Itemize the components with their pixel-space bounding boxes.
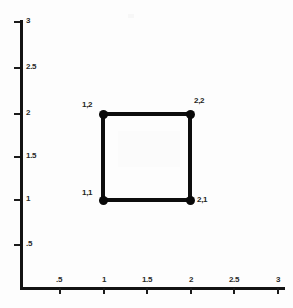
x-tick-label-1.5: 1.5 — [137, 276, 157, 284]
data-point-label-2-1: 2,1 — [197, 196, 207, 204]
data-point-2-1 — [186, 196, 195, 205]
plot-figure: 3 2.5 2 1.5 1 .5 .5 1 1.5 2 2.5 3 1,2 2,… — [0, 0, 293, 308]
y-tick-2 — [14, 113, 20, 115]
data-point-label-1-2: 1,2 — [82, 101, 92, 109]
x-tick-2.5 — [233, 288, 235, 294]
x-tick-2 — [190, 288, 192, 294]
x-tick-1 — [103, 288, 105, 294]
y-tick-label-2.5: 2.5 — [26, 63, 36, 71]
square-edge-top — [103, 112, 191, 116]
y-axis-line — [20, 20, 23, 290]
y-tick-label-0.5: .5 — [26, 240, 32, 248]
data-point-2-2 — [186, 110, 195, 119]
data-point-1-1 — [99, 196, 108, 205]
y-tick-1.5 — [14, 156, 20, 158]
y-tick-2.5 — [14, 67, 20, 69]
y-tick-label-3: 3 — [26, 17, 30, 25]
y-tick-3 — [14, 21, 20, 23]
square-edge-right — [188, 112, 192, 200]
x-tick-label-3: 3 — [268, 276, 288, 284]
square-edge-bottom — [103, 198, 191, 202]
scan-artifact — [118, 131, 180, 167]
data-point-label-1-1: 1,1 — [82, 189, 92, 197]
x-tick-1.5 — [146, 288, 148, 294]
y-tick-0.5 — [14, 244, 20, 246]
x-tick-0.5 — [59, 288, 61, 294]
x-tick-label-1: 1 — [94, 276, 114, 284]
y-tick-label-1: 1 — [26, 195, 30, 203]
y-tick-label-2: 2 — [26, 109, 30, 117]
square-edge-left — [101, 112, 105, 200]
data-point-label-2-2: 2,2 — [194, 97, 204, 105]
x-tick-label-2: 2 — [181, 276, 201, 284]
x-tick-label-2.5: 2.5 — [224, 276, 244, 284]
scan-artifact — [128, 14, 134, 18]
y-tick-label-1.5: 1.5 — [26, 152, 36, 160]
x-tick-3 — [277, 288, 279, 294]
y-tick-1 — [14, 199, 20, 201]
data-point-1-2 — [99, 110, 108, 119]
x-tick-label-0.5: .5 — [49, 276, 69, 284]
